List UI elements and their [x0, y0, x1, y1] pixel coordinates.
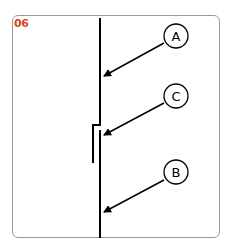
callout-c-label: C: [171, 89, 180, 104]
leader-b: B: [104, 160, 188, 212]
upper-conductor: [93, 18, 100, 163]
callout-b-label: B: [172, 165, 181, 180]
wire-diagram: A C B: [0, 0, 229, 244]
leader-c: C: [104, 84, 188, 135]
callout-a-label: A: [172, 29, 181, 44]
leader-a: A: [104, 24, 188, 76]
